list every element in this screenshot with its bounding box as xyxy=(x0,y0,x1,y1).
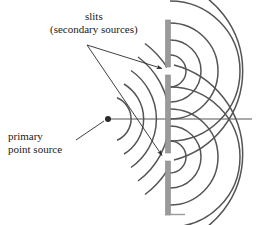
lower-arc-3 xyxy=(170,109,218,205)
primary-source-label-line1: primary xyxy=(8,130,62,143)
slits-label: slits (secondary sources) xyxy=(50,10,138,36)
primary-source-leader xyxy=(76,121,104,140)
slits-leader-lower xyxy=(87,45,162,156)
primary-point-source-dot xyxy=(105,116,111,122)
figure-canvas: slits (secondary sources) primary point … xyxy=(0,0,260,225)
barrier-segment-middle xyxy=(166,75,171,153)
barrier-segment-top xyxy=(166,20,171,67)
primary-source-label-line2: point source xyxy=(8,143,62,156)
upper-arc-3 xyxy=(170,23,218,119)
slits-label-line2: (secondary sources) xyxy=(50,23,138,36)
upper-arc-5 xyxy=(174,0,243,160)
primary-source-label: primary point source xyxy=(8,130,62,156)
slits-label-line1: slits xyxy=(50,10,138,23)
upper-arc-1 xyxy=(170,55,186,87)
barrier-segment-bottom xyxy=(166,161,171,215)
